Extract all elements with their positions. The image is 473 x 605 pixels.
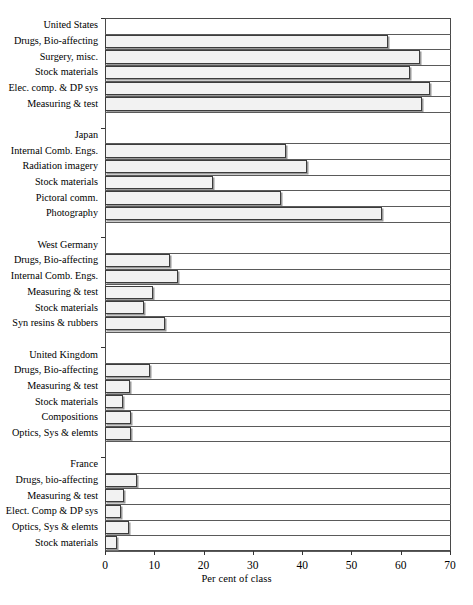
category-label: Stock materials: [0, 302, 98, 314]
category-label: Drugs, bio-affecting: [0, 474, 98, 486]
bar: [105, 380, 130, 393]
x-axis-tick-label: 20: [198, 558, 210, 572]
bar: [105, 317, 165, 330]
bar-row: [105, 488, 451, 504]
bar: [105, 521, 129, 534]
bar-row: [105, 159, 451, 175]
bar-row: [105, 143, 451, 159]
category-label: Measuring & test: [0, 490, 98, 502]
bar: [105, 301, 144, 314]
x-axis-tick: [253, 551, 254, 555]
bar-row: [105, 253, 451, 269]
bar: [105, 536, 117, 549]
bar-row: [105, 363, 451, 379]
x-axis-tick: [154, 551, 155, 555]
spacer-row: [105, 222, 451, 238]
category-label: Optics, Sys & elemts: [0, 521, 98, 533]
x-axis-title: Per cent of class: [0, 573, 473, 584]
x-axis-tick-label: 50: [346, 558, 358, 572]
bar: [105, 411, 131, 424]
category-label: Optics, Sys & elemts: [0, 427, 98, 439]
bar: [105, 427, 131, 440]
bar: [105, 50, 420, 63]
group-label: West Germany: [0, 239, 98, 251]
category-label: Measuring & test: [0, 98, 98, 110]
category-label: Stock materials: [0, 537, 98, 549]
bar: [105, 144, 286, 157]
category-label: Drugs, Bio-affecting: [0, 364, 98, 376]
x-axis-tick-label: 0: [102, 558, 108, 572]
bar-row: [105, 96, 451, 112]
category-label: Drugs, Bio-affecting: [0, 254, 98, 266]
bar-row: [105, 504, 451, 520]
bar-row: [105, 426, 451, 442]
bar: [105, 207, 382, 220]
bar: [105, 82, 430, 95]
x-axis-tick: [351, 551, 352, 555]
x-axis-tick: [302, 551, 303, 555]
x-axis-tick-label: 60: [395, 558, 407, 572]
bar: [105, 474, 137, 487]
x-axis-tick: [401, 551, 402, 555]
bar-row: [105, 300, 451, 316]
bar: [105, 505, 121, 518]
category-label: Surgery, misc.: [0, 51, 98, 63]
bar: [105, 160, 307, 173]
category-label: Internal Comb. Engs.: [0, 145, 98, 157]
category-label: Radiation imagery: [0, 160, 98, 172]
group-label: France: [0, 458, 98, 470]
category-label: Compositions: [0, 411, 98, 423]
category-label: Syn resins & rubbers: [0, 317, 98, 329]
bar: [105, 176, 213, 189]
bar: [105, 254, 170, 267]
category-label: Measuring & test: [0, 380, 98, 392]
spacer-row: [105, 112, 451, 128]
category-label: Photography: [0, 207, 98, 219]
x-axis-tick: [105, 551, 106, 555]
bar: [105, 364, 150, 377]
category-label: Pictoral comm.: [0, 192, 98, 204]
bar-row: [105, 206, 451, 222]
bar: [105, 97, 422, 110]
category-label: Stock materials: [0, 66, 98, 78]
bar-row: [105, 175, 451, 191]
category-label: Elect. Comp & DP sys: [0, 505, 98, 517]
x-axis-title-text: Per cent of class: [201, 573, 271, 584]
bar: [105, 35, 388, 48]
bar-row: [105, 269, 451, 285]
x-axis-tick-label: 40: [296, 558, 308, 572]
group-header-row: [105, 457, 451, 473]
bar: [105, 270, 178, 283]
bar-row: [105, 34, 451, 50]
bar: [105, 489, 124, 502]
spacer-row: [105, 441, 451, 457]
group-label: United Kingdom: [0, 349, 98, 361]
x-axis-tick: [450, 551, 451, 555]
bar-row: [105, 473, 451, 489]
category-label: Drugs, Bio-affecting: [0, 35, 98, 47]
group-label: Japan: [0, 129, 98, 141]
y-axis-labels: United StatesDrugs, Bio-affectingSurgery…: [0, 18, 103, 551]
group-header-row: [105, 237, 451, 253]
bar-row: [105, 316, 451, 332]
category-label: Elec. comp. & DP sys: [0, 82, 98, 94]
bar-row: [105, 49, 451, 65]
category-label: Measuring & test: [0, 286, 98, 298]
bar-row: [105, 394, 451, 410]
category-label: Stock materials: [0, 396, 98, 408]
x-axis-tick-label: 70: [444, 558, 456, 572]
bar-row: [105, 65, 451, 81]
bar: [105, 66, 410, 79]
x-axis-tick-label: 10: [149, 558, 161, 572]
group-header-row: [105, 128, 451, 144]
category-label: Internal Comb. Engs.: [0, 270, 98, 282]
bar-row: [105, 285, 451, 301]
bar-row: [105, 520, 451, 536]
bar-row: [105, 190, 451, 206]
bars-container: [105, 18, 451, 551]
group-header-row: [105, 347, 451, 363]
bar-row: [105, 81, 451, 97]
bar-row: [105, 379, 451, 395]
x-axis-tick: [204, 551, 205, 555]
bar-row: [105, 410, 451, 426]
